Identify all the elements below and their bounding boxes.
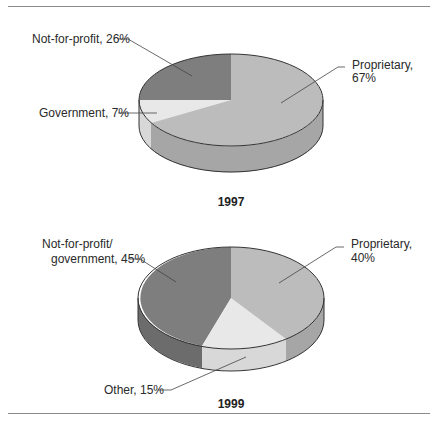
label-1999-proprietary-line2: 40% <box>351 251 375 265</box>
label-1997-government: Government, 7% <box>39 106 129 120</box>
label-1997-not-for-profit: Not-for-profit, 26% <box>32 32 130 46</box>
label-1999-other: Other, 15% <box>104 383 164 397</box>
label-1999-proprietary-line1: Proprietary, <box>351 237 412 251</box>
pie-1997 <box>118 39 345 172</box>
label-1997-proprietary-line2: 67% <box>352 71 376 85</box>
label-1999-nfp-line1: Not-for-profit/ <box>42 237 113 251</box>
year-1997: 1997 <box>201 195 261 209</box>
pie-1997-slice-not-for-profit <box>139 54 231 100</box>
year-1999: 1999 <box>201 397 261 411</box>
pie-1999 <box>128 247 344 390</box>
label-1997-proprietary-line1: Proprietary, <box>352 58 413 72</box>
label-1999-nfp-line2: government, 45% <box>51 252 145 266</box>
